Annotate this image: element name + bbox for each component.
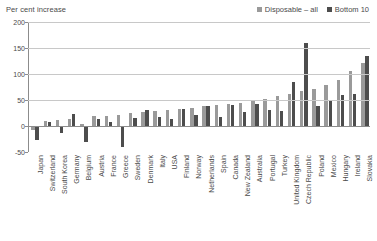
bar-bottom-10 (292, 82, 295, 126)
x-tick-label: Switzerland (49, 155, 56, 191)
gridline (28, 22, 370, 23)
bar-group (41, 22, 53, 152)
gridline (28, 100, 370, 101)
bar-bottom-10 (304, 43, 307, 126)
bar-group (176, 22, 188, 152)
bar-group (29, 22, 41, 152)
bar-bottom-10 (72, 114, 75, 126)
bar-group (224, 22, 236, 152)
legend-swatch-disposable-all (257, 7, 262, 12)
y-axis-labels: 200150100500-50 (0, 22, 25, 152)
bar-disposable-all (239, 103, 242, 126)
bar-disposable-all (153, 111, 156, 126)
bar-bottom-10 (170, 119, 173, 126)
bar-disposable-all (92, 116, 95, 126)
x-axis-labels: JapanSwitzerlandSouth KoreaGermanyBelgiu… (28, 155, 370, 241)
bar-series-container (29, 22, 370, 152)
bar-bottom-10 (280, 111, 283, 126)
bar-disposable-all (202, 106, 205, 126)
bar-disposable-all (300, 91, 303, 126)
bar-bottom-10 (231, 105, 234, 126)
bar-disposable-all (227, 104, 230, 126)
y-tick-label: 0 (3, 123, 25, 130)
y-axis-tick (25, 48, 28, 49)
bar-disposable-all (349, 71, 352, 126)
bar-bottom-10 (329, 101, 332, 126)
x-tick-label: Italy (159, 155, 166, 168)
y-axis-tick (25, 74, 28, 75)
chart-title: Per cent increase (6, 5, 66, 14)
y-axis-tick (25, 100, 28, 101)
x-tick-label: Greece (122, 155, 129, 178)
bar-bottom-10 (255, 104, 258, 126)
x-tick-label: Czech Republic (305, 155, 312, 204)
legend-label-disposable-all: Disposable – all (265, 5, 318, 14)
bar-group (310, 22, 322, 152)
bar-bottom-10 (194, 115, 197, 126)
bar-group (273, 22, 285, 152)
x-tick-label: South Korea (61, 155, 68, 194)
x-tick-label: Spain (220, 155, 227, 173)
bar-group (237, 22, 249, 152)
bar-disposable-all (117, 115, 120, 126)
y-tick-label: 200 (3, 19, 25, 26)
bar-bottom-10 (35, 126, 38, 140)
bar-bottom-10 (121, 126, 124, 147)
x-tick-label: Mexico (330, 155, 337, 177)
bar-bottom-10 (353, 94, 356, 126)
bar-group (200, 22, 212, 152)
bar-bottom-10 (243, 112, 246, 126)
bar-disposable-all (141, 112, 144, 126)
bar-group (261, 22, 273, 152)
x-tick-label: Germany (73, 155, 80, 184)
x-tick-label: Hungary (342, 155, 349, 181)
y-axis-tick (25, 22, 28, 23)
gridline (28, 48, 370, 49)
bar-disposable-all (251, 101, 254, 126)
bar-group (151, 22, 163, 152)
y-axis-tick (25, 152, 28, 153)
plot-area (28, 22, 370, 152)
bar-bottom-10 (158, 117, 161, 126)
gridline (28, 74, 370, 75)
legend-item-disposable-all: Disposable – all (257, 5, 318, 14)
bar-bottom-10 (182, 109, 185, 126)
bar-disposable-all (337, 80, 340, 126)
bar-group (127, 22, 139, 152)
x-tick-label: Slovakia (366, 155, 373, 181)
bar-disposable-all (178, 109, 181, 126)
bar-group (212, 22, 224, 152)
bar-group (322, 22, 334, 152)
x-tick-label: France (110, 155, 117, 177)
bar-group (102, 22, 114, 152)
bar-group (139, 22, 151, 152)
bar-bottom-10 (60, 126, 63, 133)
x-tick-label: Turkey (281, 155, 288, 176)
bar-disposable-all (105, 116, 108, 126)
x-tick-label: Ireland (354, 155, 361, 176)
y-axis-tick (25, 126, 28, 127)
y-tick-label: -50 (3, 149, 25, 156)
bar-disposable-all (324, 85, 327, 126)
bar-bottom-10 (133, 118, 136, 126)
bar-disposable-all (190, 108, 193, 126)
bar-disposable-all (129, 113, 132, 126)
bar-bottom-10 (84, 126, 87, 142)
legend-swatch-bottom-10 (327, 7, 332, 12)
x-tick-label: United Kingdom (293, 155, 300, 205)
bar-group (286, 22, 298, 152)
x-tick-label: Belgium (85, 155, 92, 180)
bar-bottom-10 (316, 106, 319, 126)
bar-bottom-10 (268, 110, 271, 126)
y-tick-label: 50 (3, 97, 25, 104)
bar-bottom-10 (365, 56, 368, 126)
legend-label-bottom-10: Bottom 10 (335, 5, 369, 14)
x-tick-label: Denmark (147, 155, 154, 183)
bar-group (53, 22, 65, 152)
x-tick-label: Finland (183, 155, 190, 178)
bar-chart: Per cent increase Disposable – all Botto… (0, 0, 377, 241)
bar-disposable-all (288, 94, 291, 126)
bar-disposable-all (361, 63, 364, 126)
x-tick-label: Australia (256, 155, 263, 182)
x-tick-label: Canada (232, 155, 239, 180)
